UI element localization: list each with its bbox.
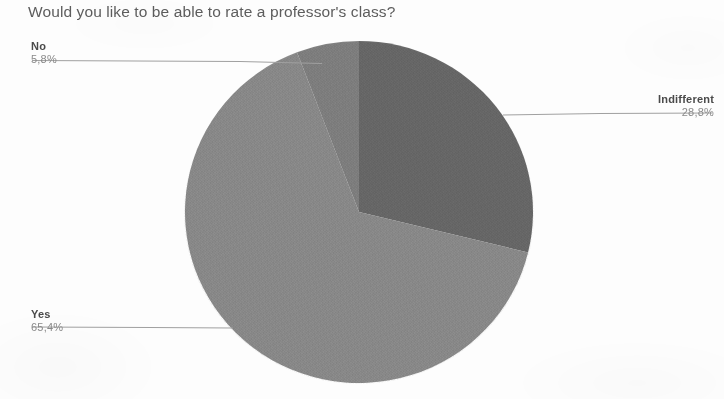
callout-yes-percent: 65,4% [31,320,63,334]
callout-yes[interactable]: Yes 65,4% [31,308,63,334]
callout-yes-label: Yes [31,308,63,320]
chart-page: Would you like to be able to rate a prof… [0,0,724,399]
callout-no-label: No [31,40,57,52]
callout-no[interactable]: No 5,8% [31,40,57,66]
pie-slices-svg [0,0,724,399]
callout-indifferent[interactable]: Indifferent 28,8% [658,93,714,119]
callout-no-percent: 5,8% [31,52,57,66]
callout-indifferent-label: Indifferent [658,93,714,105]
pie-chart [0,0,724,399]
callout-indifferent-percent: 28,8% [658,105,714,119]
